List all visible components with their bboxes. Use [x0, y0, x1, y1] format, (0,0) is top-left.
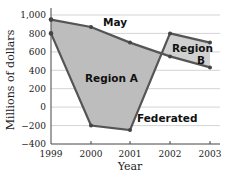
svg-text:1999: 1999	[40, 149, 63, 159]
label-region-b-line2: B	[197, 54, 205, 66]
y-axis-label: Millions of dollars	[4, 29, 17, 130]
x-axis-label: Year	[117, 160, 143, 173]
svg-text:2000: 2000	[80, 149, 103, 159]
svg-text:−200: −200	[21, 121, 46, 131]
svg-text:2003: 2003	[199, 149, 222, 159]
svg-text:−400: −400	[21, 139, 46, 149]
svg-text:2002: 2002	[159, 149, 182, 159]
svg-text:600: 600	[29, 47, 46, 57]
label-federated: Federated	[137, 112, 197, 124]
y-tick-labels: 1,000 800 600 400 200 0 −200 −400	[20, 10, 46, 149]
svg-text:1,000: 1,000	[20, 10, 46, 20]
label-region-b-line1: Region	[172, 42, 213, 54]
label-region-a: Region A	[85, 72, 139, 84]
svg-text:200: 200	[29, 84, 46, 94]
svg-text:400: 400	[29, 66, 46, 76]
x-tick-labels: 1999 2000 2001 2002 2003	[40, 149, 222, 159]
label-may: May	[103, 16, 127, 28]
svg-text:800: 800	[29, 29, 46, 39]
svg-text:2001: 2001	[119, 149, 142, 159]
svg-text:0: 0	[40, 102, 46, 112]
chart: 1,000 800 600 400 200 0 −200 −400 1999 2…	[0, 0, 229, 174]
